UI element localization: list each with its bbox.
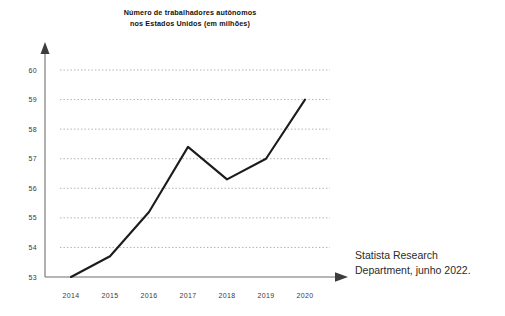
x-axis-tick-labels: 2014201520162017201820192020 (63, 292, 314, 299)
y-axis-tick-label: 58 (29, 126, 37, 133)
gridlines-group (60, 70, 330, 247)
y-axis-tick-label: 57 (29, 155, 37, 162)
y-axis-tick-label: 56 (29, 185, 37, 192)
y-axis-tick-label: 53 (29, 274, 37, 281)
x-axis-tick-label: 2014 (63, 292, 80, 299)
y-axis-arrow-icon (41, 42, 50, 54)
y-axis-tick-label: 54 (29, 244, 37, 251)
chart-container: Número de trabalhadores autônomos nos Es… (0, 0, 505, 316)
y-axis-tick-labels: 5354555657585960 (29, 67, 37, 281)
y-axis-tick-label: 55 (29, 214, 37, 221)
y-axis-tick-label: 59 (29, 96, 37, 103)
x-axis-tick-label: 2017 (180, 292, 197, 299)
x-axis-tick-label: 2015 (102, 292, 119, 299)
source-attribution: Statista Research Department, junho 2022… (355, 248, 503, 277)
x-axis-tick-label: 2018 (219, 292, 236, 299)
x-axis-tick-label: 2016 (141, 292, 158, 299)
x-axis-arrow-icon (335, 272, 348, 282)
x-axis-tick-label: 2019 (258, 292, 275, 299)
y-axis-tick-label: 60 (29, 67, 37, 74)
x-axis-tick-label: 2020 (297, 292, 314, 299)
